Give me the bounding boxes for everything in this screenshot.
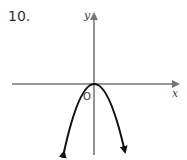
y-axis-label: y	[83, 9, 91, 22]
x-axis-label: x	[172, 87, 179, 100]
origin-label: O	[83, 91, 91, 102]
parabola-graph: y x O	[0, 0, 187, 160]
